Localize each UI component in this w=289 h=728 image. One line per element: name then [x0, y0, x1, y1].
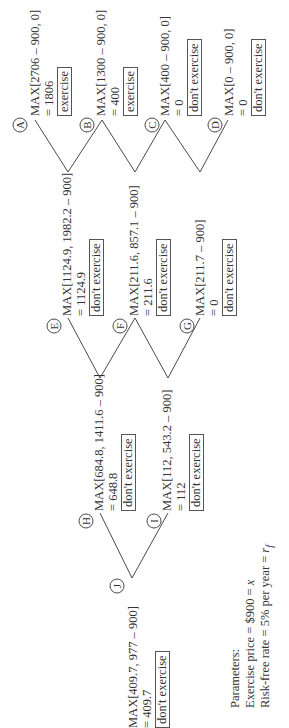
svg-text:A: A: [14, 121, 26, 129]
node-c-decision: don't exercise: [187, 39, 202, 116]
risk-free-line: Risk-free rate = 5% per year = rf: [258, 545, 277, 708]
node-marker-i: I: [147, 514, 161, 528]
svg-text:C: C: [146, 121, 158, 128]
node-b-value: = 400: [108, 10, 122, 116]
svg-text:J: J: [111, 583, 123, 588]
node-marker-d: D: [208, 118, 222, 132]
node-g-decision: don't exercise: [222, 239, 237, 316]
exercise-price-symbol: x: [243, 580, 257, 586]
node-e: MAX[1124.9, 1982.2 – 900] = 1124.9 don't…: [60, 173, 104, 316]
node-g: MAX[211.7 – 900] = 0 don't exercise: [193, 220, 237, 316]
node-i-value: = 112: [174, 390, 188, 511]
node-marker-b: B: [80, 118, 94, 132]
node-h-formula: MAX[684.8, 1411.6 – 900]: [92, 374, 106, 511]
node-d-formula: MAX[0 – 900, 0]: [222, 29, 236, 117]
node-h: MAX[684.8, 1411.6 – 900] = 648.8 don't e…: [92, 374, 136, 511]
svg-text:H: H: [80, 517, 92, 525]
node-b: MAX[1300 – 900, 0] = 400 exercise: [94, 10, 138, 116]
node-e-formula: MAX[1124.9, 1982.2 – 900]: [60, 173, 74, 316]
node-d-value: = 0: [236, 29, 250, 117]
node-c: MAX[400 – 900, 0] = 0 don't exercise: [158, 16, 202, 116]
node-f-formula: MAX[211.6, 857.1 – 900]: [127, 185, 141, 316]
node-b-formula: MAX[1300 – 900, 0]: [94, 10, 108, 116]
node-j-value: = 409.7: [140, 606, 154, 728]
node-i-decision: don't exercise: [189, 434, 204, 511]
node-j-decision: don't exercise: [155, 651, 170, 728]
edge-h-e: [68, 318, 100, 378]
svg-text:I: I: [148, 519, 160, 523]
node-g-formula: MAX[211.7 – 900]: [193, 220, 207, 316]
node-e-value: = 1124.9: [74, 173, 88, 316]
node-marker-c: C: [145, 118, 159, 132]
node-d-decision: don't exercise: [251, 39, 266, 116]
node-f: MAX[211.6, 857.1 – 900] = 211.6 don't ex…: [127, 185, 171, 316]
node-a-value: = 1806: [42, 10, 56, 116]
edge-i-f: [135, 318, 168, 378]
svg-text:G: G: [181, 322, 193, 330]
node-j: MAX[409.7, 977 – 900] = 409.7 don't exer…: [126, 606, 170, 728]
node-a-formula: MAX[2706 – 900, 0]: [28, 10, 42, 116]
node-b-decision: exercise: [123, 67, 138, 116]
node-c-value: = 0: [172, 16, 186, 116]
node-h-decision: don't exercise: [121, 434, 136, 511]
node-marker-j: J: [110, 579, 124, 593]
edge-f-b: [102, 120, 135, 172]
node-g-value: = 0: [207, 220, 221, 316]
node-marker-e: E: [47, 319, 61, 333]
node-h-value: = 648.8: [106, 374, 120, 511]
node-marker-h: H: [79, 514, 93, 528]
node-i: MAX[112, 543.2 – 900] = 112 don't exerci…: [160, 390, 204, 511]
node-a-decision: exercise: [57, 67, 72, 116]
node-a: MAX[2706 – 900, 0] = 1806 exercise: [28, 10, 72, 116]
node-marker-g: G: [180, 319, 194, 333]
exercise-price-line: Exercise price = $900 = x: [243, 545, 258, 708]
node-marker-a: A: [13, 118, 27, 132]
edge-j-h: [100, 513, 132, 578]
edge-e-a: [35, 120, 68, 172]
svg-text:D: D: [209, 121, 221, 129]
node-marker-f: F: [113, 319, 127, 333]
svg-text:F: F: [114, 323, 126, 329]
risk-free-symbol: r: [258, 548, 272, 553]
risk-free-subscript: f: [264, 545, 275, 548]
exercise-price-text: Exercise price = $900 =: [243, 585, 257, 708]
edge-g-c: [165, 120, 200, 172]
risk-free-text: Risk-free rate = 5% per year =: [258, 553, 272, 708]
binomial-tree-diagram: A B C D E F G H I J MAX[2706 – 900, 0] =…: [0, 0, 289, 728]
node-e-decision: don't exercise: [89, 239, 104, 316]
node-i-formula: MAX[112, 543.2 – 900]: [160, 390, 174, 511]
node-f-decision: don't exercise: [156, 239, 171, 316]
svg-text:B: B: [81, 121, 93, 128]
node-d: MAX[0 – 900, 0] = 0 don't exercise: [222, 29, 266, 117]
node-f-value: = 211.6: [141, 185, 155, 316]
node-j-formula: MAX[409.7, 977 – 900]: [126, 606, 140, 728]
parameters-title: Parameters:: [228, 545, 243, 708]
node-c-formula: MAX[400 – 900, 0]: [158, 16, 172, 116]
svg-text:E: E: [48, 322, 60, 329]
parameters-legend: Parameters: Exercise price = $900 = x Ri…: [228, 545, 277, 708]
